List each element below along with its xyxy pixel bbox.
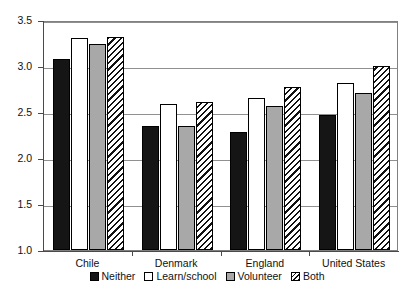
legend-label: Both xyxy=(303,270,325,282)
legend-swatch-icon xyxy=(90,272,99,281)
bar-learn-school-england xyxy=(248,98,265,250)
legend-item-both[interactable]: Both xyxy=(291,270,325,282)
gridline xyxy=(44,22,397,23)
bar-both-chile xyxy=(107,37,124,250)
bar-volunteer-united-states xyxy=(355,93,372,250)
legend-label: Volunteer xyxy=(238,270,282,282)
y-axis-label: 1.5 xyxy=(4,199,32,210)
plot-area xyxy=(43,21,398,251)
legend-label: Neither xyxy=(102,270,136,282)
y-axis-tick xyxy=(38,159,43,160)
y-axis-label: 2.5 xyxy=(4,107,32,118)
bar-neither-denmark xyxy=(142,126,159,250)
bar-both-united-states xyxy=(373,66,390,250)
y-axis-tick xyxy=(38,67,43,68)
legend-item-learn-school[interactable]: Learn/school xyxy=(144,270,216,282)
legend-swatch-icon xyxy=(144,272,153,281)
legend-item-neither[interactable]: Neither xyxy=(90,270,136,282)
y-axis-label: 3.5 xyxy=(4,15,32,26)
x-axis-label-chile: Chile xyxy=(75,258,99,270)
bar-volunteer-england xyxy=(266,106,283,250)
legend-swatch-icon xyxy=(291,272,300,281)
x-axis-tick xyxy=(221,252,222,256)
bar-learn-school-united-states xyxy=(337,83,354,250)
x-axis-tick xyxy=(132,252,133,256)
bar-learn-school-denmark xyxy=(160,104,177,250)
y-axis-label: 1.0 xyxy=(4,245,32,256)
legend-swatch-icon xyxy=(226,272,235,281)
bar-both-england xyxy=(284,87,301,250)
x-axis-label-denmark: Denmark xyxy=(155,258,198,270)
bar-neither-chile xyxy=(53,59,70,250)
x-axis-label-united-states: United States xyxy=(322,258,385,270)
x-axis-tick xyxy=(309,252,310,256)
x-axis-label-england: England xyxy=(246,258,285,270)
y-axis-tick xyxy=(38,21,43,22)
y-axis-label: 3.0 xyxy=(4,61,32,72)
bar-neither-united-states xyxy=(319,115,336,250)
bar-learn-school-chile xyxy=(71,38,88,250)
y-axis-tick xyxy=(38,205,43,206)
bar-volunteer-chile xyxy=(89,44,106,250)
bar-both-denmark xyxy=(196,102,213,250)
bar-neither-england xyxy=(230,132,247,250)
bar-chart: 1.01.52.02.53.03.5 ChileDenmarkEnglandUn… xyxy=(0,0,414,291)
chart-legend: NeitherLearn/schoolVolunteerBoth xyxy=(0,270,414,282)
bar-volunteer-denmark xyxy=(178,126,195,250)
legend-label: Learn/school xyxy=(156,270,216,282)
y-axis-tick xyxy=(38,113,43,114)
legend-item-volunteer[interactable]: Volunteer xyxy=(226,270,282,282)
y-axis-label: 2.0 xyxy=(4,153,32,164)
y-axis-line xyxy=(43,21,44,252)
